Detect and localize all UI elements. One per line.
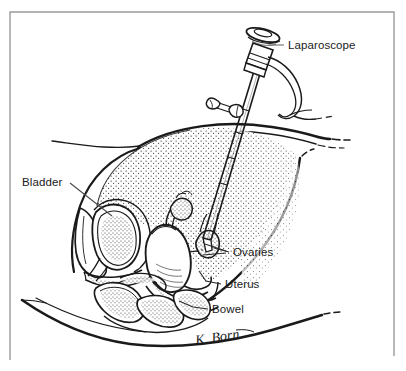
signature-text: K. Born xyxy=(193,326,240,348)
label-ovaries: Ovaries xyxy=(233,246,273,258)
label-bowel: Bowel xyxy=(212,303,244,315)
laparoscope-barrel xyxy=(244,43,273,77)
trocar-port xyxy=(206,98,243,117)
laparoscope-eyepiece xyxy=(245,25,281,45)
label-laparoscope: Laparoscope xyxy=(288,39,356,51)
label-uterus: Uterus xyxy=(225,278,260,290)
laparoscopy-diagram: Laparoscope Bladder Ovaries Uterus Bowel… xyxy=(0,0,406,371)
label-bladder: Bladder xyxy=(22,176,62,188)
illustration-figure: Laparoscope Bladder Ovaries Uterus Bowel… xyxy=(0,0,406,371)
light-cable xyxy=(266,57,334,119)
